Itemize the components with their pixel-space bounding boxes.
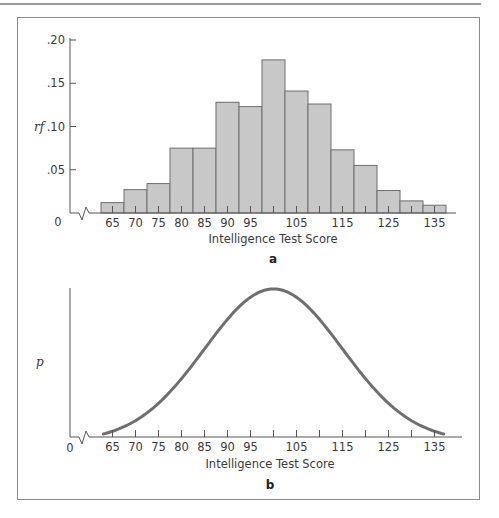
histogram-panel: .05.10.15.20 65707580859095105115125135 … [34, 33, 456, 266]
figure-svg: .05.10.15.20 65707580859095105115125135 … [0, 0, 499, 518]
y-tick-label: .10 [47, 120, 65, 134]
x-tick-label: 80 [174, 440, 189, 454]
origin-label: 0 [54, 215, 61, 229]
y-ticks: .05.10.15.20 [47, 33, 76, 177]
histogram-bar [285, 91, 308, 213]
histogram-bar [239, 107, 262, 213]
x-tick-label: 115 [332, 440, 354, 454]
x-tick-label: 135 [424, 440, 446, 454]
x-axis-title: Intelligence Test Score [205, 457, 334, 471]
x-tick-label: 65 [105, 216, 120, 230]
y-axis-label: p [36, 355, 44, 369]
x-tick-label: 70 [128, 440, 143, 454]
x-tick-label: 115 [332, 216, 354, 230]
y-tick-label: .15 [47, 76, 65, 90]
x-tick-label: 95 [243, 216, 258, 230]
x-tick-label: 80 [174, 216, 189, 230]
x-tick-label: 135 [424, 216, 446, 230]
histogram-bar [308, 104, 331, 213]
histogram-bar [331, 150, 354, 213]
histogram-bar [193, 148, 216, 213]
normal-curve-panel: 65707580859095105115125135 0 p Intellige… [36, 288, 462, 492]
x-tick-label: 90 [220, 440, 235, 454]
histogram-bar [170, 148, 193, 213]
normal-curve [103, 289, 443, 434]
x-tick-label: 75 [151, 440, 166, 454]
x-tick-label: 95 [243, 440, 258, 454]
histogram-bar [262, 60, 285, 213]
x-tick-label: 85 [197, 440, 212, 454]
x-tick-label: 70 [128, 216, 143, 230]
x-tick-label: 105 [286, 440, 308, 454]
x-tick-label: 65 [105, 440, 120, 454]
x-tick-label: 75 [151, 216, 166, 230]
x-ticks: 65707580859095105115125135 [105, 430, 445, 454]
y-tick-label: .20 [47, 33, 65, 47]
y-axis-label: rf [34, 120, 47, 134]
histogram-bar [216, 102, 239, 213]
histogram-bar [354, 165, 377, 213]
panel-label-a: a [269, 252, 277, 266]
y-tick-label: .05 [47, 163, 65, 177]
x-axis-title: Intelligence Test Score [208, 232, 337, 246]
panel-label-b: b [266, 478, 275, 492]
x-tick-label: 105 [286, 216, 308, 230]
histogram-bars [101, 60, 446, 213]
x-tick-label: 90 [220, 216, 235, 230]
x-tick-label: 125 [378, 440, 400, 454]
x-tick-label: 125 [378, 216, 400, 230]
origin-label: 0 [66, 441, 73, 455]
x-tick-label: 85 [197, 216, 212, 230]
